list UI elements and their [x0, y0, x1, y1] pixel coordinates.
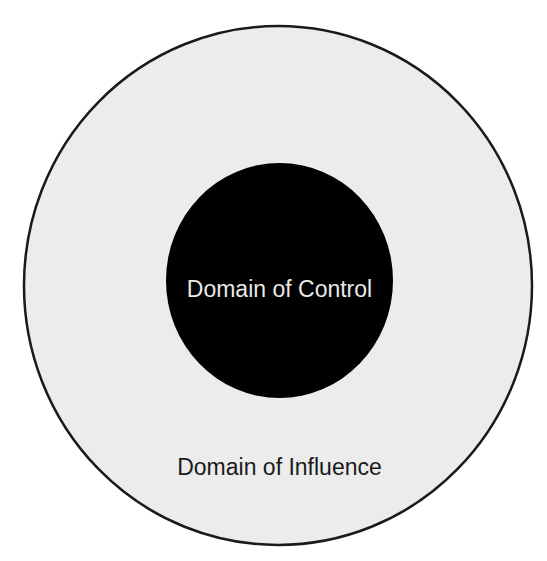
- domain-diagram: Domain of Control Domain of Influence: [0, 0, 547, 561]
- inner-label: Domain of Control: [187, 276, 372, 302]
- outer-label: Domain of Influence: [177, 454, 382, 480]
